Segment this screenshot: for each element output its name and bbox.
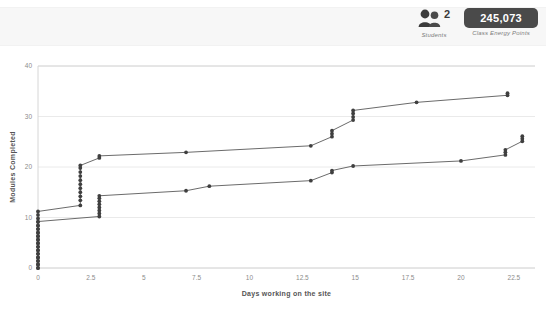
svg-text:22.5: 22.5 [508, 274, 521, 281]
data-point[interactable] [78, 194, 82, 198]
data-point[interactable] [459, 159, 463, 163]
data-point[interactable] [351, 115, 355, 119]
data-point[interactable] [78, 190, 82, 194]
data-point[interactable] [78, 186, 82, 190]
data-point[interactable] [520, 134, 524, 138]
students-count: 2 [444, 8, 450, 20]
svg-text:15: 15 [352, 274, 360, 281]
data-point[interactable] [36, 245, 40, 249]
svg-text:10: 10 [25, 214, 33, 221]
data-point[interactable] [78, 178, 82, 182]
data-point[interactable] [36, 241, 40, 245]
energy-points-badge[interactable]: 245,073 [464, 8, 538, 28]
data-point[interactable] [97, 194, 101, 198]
data-point[interactable] [36, 224, 40, 228]
progress-chart: 010203040 02.557.51012.51517.52022.5 Day… [0, 50, 546, 309]
data-point[interactable] [36, 266, 40, 270]
data-point[interactable] [309, 144, 313, 148]
energy-stat[interactable]: 245,073 Class Energy Points [464, 8, 538, 37]
data-point[interactable] [36, 231, 40, 235]
data-point[interactable] [36, 263, 40, 267]
svg-text:0: 0 [28, 264, 32, 271]
svg-text:12.5: 12.5 [296, 274, 309, 281]
y-axis-ticks: 010203040 [25, 62, 33, 271]
chart-svg: 010203040 02.557.51012.51517.52022.5 Day… [0, 50, 546, 309]
data-point[interactable] [330, 169, 334, 173]
data-point[interactable] [506, 91, 510, 95]
svg-text:40: 40 [25, 62, 33, 69]
data-point[interactable] [184, 150, 188, 154]
svg-text:7.5: 7.5 [192, 274, 201, 281]
y-axis-title: Modules Completed [9, 131, 17, 203]
axis-titles: Days working on the siteModules Complete… [9, 131, 331, 298]
data-point[interactable] [330, 129, 334, 133]
data-point[interactable] [78, 164, 82, 168]
data-point[interactable] [36, 220, 40, 224]
data-point[interactable] [36, 213, 40, 217]
data-point[interactable] [78, 203, 82, 207]
data-point[interactable] [36, 248, 40, 252]
data-point[interactable] [97, 154, 101, 158]
svg-text:5: 5 [142, 274, 146, 281]
data-point[interactable] [351, 164, 355, 168]
series-line-student-1 [38, 93, 508, 268]
series-lines [38, 93, 522, 268]
svg-text:10: 10 [246, 274, 254, 281]
x-axis-title: Days working on the site [242, 290, 332, 298]
data-point[interactable] [78, 170, 82, 174]
svg-text:20: 20 [25, 163, 33, 170]
students-stat: 2 Students [418, 8, 450, 39]
energy-caption: Class Energy Points [472, 29, 530, 37]
data-point[interactable] [309, 179, 313, 183]
data-point[interactable] [78, 174, 82, 178]
people-icon [418, 8, 442, 32]
data-point[interactable] [36, 234, 40, 238]
header-stats: 2 Students 245,073 Class Energy Points [418, 8, 538, 45]
data-point[interactable] [36, 259, 40, 263]
svg-text:17.5: 17.5 [402, 274, 415, 281]
data-point[interactable] [78, 198, 82, 202]
svg-text:20: 20 [457, 274, 465, 281]
svg-text:0: 0 [36, 274, 40, 281]
gridlines [38, 66, 535, 268]
series-markers [36, 91, 524, 270]
data-point[interactable] [36, 252, 40, 256]
data-point[interactable] [36, 210, 40, 214]
students-row: 2 [418, 8, 450, 30]
data-point[interactable] [415, 100, 419, 104]
students-caption: Students [421, 31, 446, 39]
series-line-student-2 [38, 136, 522, 268]
data-point[interactable] [36, 227, 40, 231]
data-point[interactable] [503, 148, 507, 152]
data-point[interactable] [36, 238, 40, 242]
data-point[interactable] [207, 184, 211, 188]
svg-text:30: 30 [25, 113, 33, 120]
x-axis-ticks: 02.557.51012.51517.52022.5 [36, 274, 520, 281]
data-point[interactable] [78, 182, 82, 186]
data-point[interactable] [36, 256, 40, 260]
data-point[interactable] [184, 189, 188, 193]
svg-text:2.5: 2.5 [86, 274, 95, 281]
data-point[interactable] [351, 109, 355, 113]
